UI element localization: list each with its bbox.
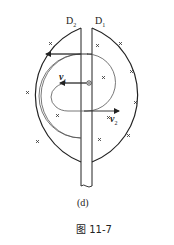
label-d1-sub: 1 bbox=[102, 22, 105, 28]
label-d2-sub: 2 bbox=[73, 22, 76, 28]
label-v1-sub: 1 bbox=[63, 78, 66, 84]
strip-bottom-edge bbox=[81, 185, 92, 187]
outer-trajectory bbox=[39, 54, 81, 138]
label-d2: D2 bbox=[66, 16, 76, 28]
cyclotron-diagram bbox=[0, 0, 174, 245]
dee-d2 bbox=[35, 28, 81, 162]
figure-caption: 图 11-7 bbox=[76, 225, 112, 235]
sub-figure-label: (d) bbox=[77, 198, 89, 208]
label-v2-sub: 2 bbox=[114, 120, 117, 126]
label-v1: v1 bbox=[59, 72, 66, 84]
label-d1: D1 bbox=[95, 16, 105, 28]
outer-arc-left bbox=[41, 54, 81, 138]
dee-d1 bbox=[92, 28, 138, 162]
label-v2: v2 bbox=[110, 114, 117, 126]
particle-source-dot bbox=[88, 82, 90, 84]
